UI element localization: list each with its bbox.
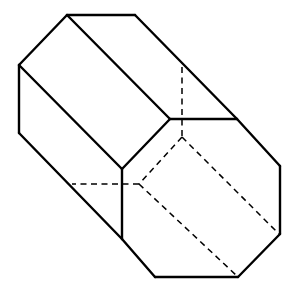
visible-edge-7 bbox=[238, 234, 280, 277]
visible-edge-11 bbox=[19, 65, 122, 169]
visible-edge-5 bbox=[122, 239, 155, 277]
visible-edges bbox=[19, 15, 280, 277]
visible-edge-4 bbox=[19, 133, 122, 239]
visible-edge-10 bbox=[67, 15, 170, 119]
hidden-edge-2 bbox=[182, 137, 279, 234]
visible-edge-1 bbox=[135, 15, 237, 119]
hidden-edges bbox=[72, 67, 279, 276]
octagonal-prism-diagram bbox=[0, 0, 288, 294]
hidden-edge-4 bbox=[139, 184, 237, 276]
visible-edge-9 bbox=[237, 119, 280, 166]
visible-edge-12 bbox=[122, 119, 170, 169]
visible-edge-2 bbox=[19, 15, 67, 65]
